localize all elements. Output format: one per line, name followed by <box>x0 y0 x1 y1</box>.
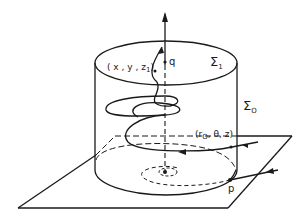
top-point-label: ( x , y , z1) <box>107 62 154 74</box>
point-p-label: p <box>228 183 234 194</box>
point-q-label: q <box>169 56 175 67</box>
diagram-figure: Σ1 ΣO q p ( x , y , z1) (rO, θ, z) <box>0 0 308 223</box>
side-point-label: (rO, θ, z) <box>195 129 233 141</box>
horizontal-plane <box>18 136 292 208</box>
diagram-canvas: Σ1 ΣO q p ( x , y , z1) (rO, θ, z) <box>0 0 308 223</box>
sigma0-label: ΣO <box>243 98 257 115</box>
sigma1-label: Σ1 <box>210 54 223 71</box>
central-axis <box>162 12 168 174</box>
base-spiral <box>142 166 230 185</box>
